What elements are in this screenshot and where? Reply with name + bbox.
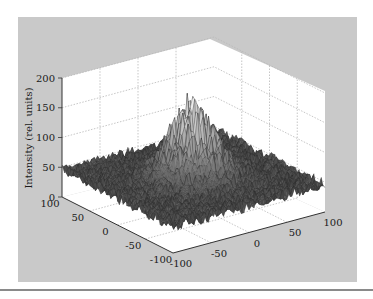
x-tick-label: -100 [170, 258, 192, 269]
surface-plot: 050100150200 -100-50050100 100500-50-100… [0, 0, 373, 299]
x-tick-label: 100 [323, 217, 342, 228]
y-tick-label: 100 [40, 198, 59, 209]
x-tick-label: 0 [254, 238, 260, 249]
z-axis-label: Intensity (rel. units) [23, 87, 34, 188]
z-tick-label: 100 [36, 132, 55, 143]
x-tick-label: -50 [211, 248, 227, 259]
z-tick-label: 150 [36, 102, 55, 113]
z-tick-label: 200 [36, 73, 55, 84]
y-tick-label: -100 [150, 254, 172, 265]
z-tick-label: 50 [42, 162, 55, 173]
y-tick-label: 0 [102, 226, 108, 237]
y-tick-label: -50 [125, 240, 141, 251]
y-tick-label: 50 [71, 212, 84, 223]
z-tick-labels: 050100150200 [36, 73, 62, 203]
x-tick-label: 50 [289, 227, 302, 238]
